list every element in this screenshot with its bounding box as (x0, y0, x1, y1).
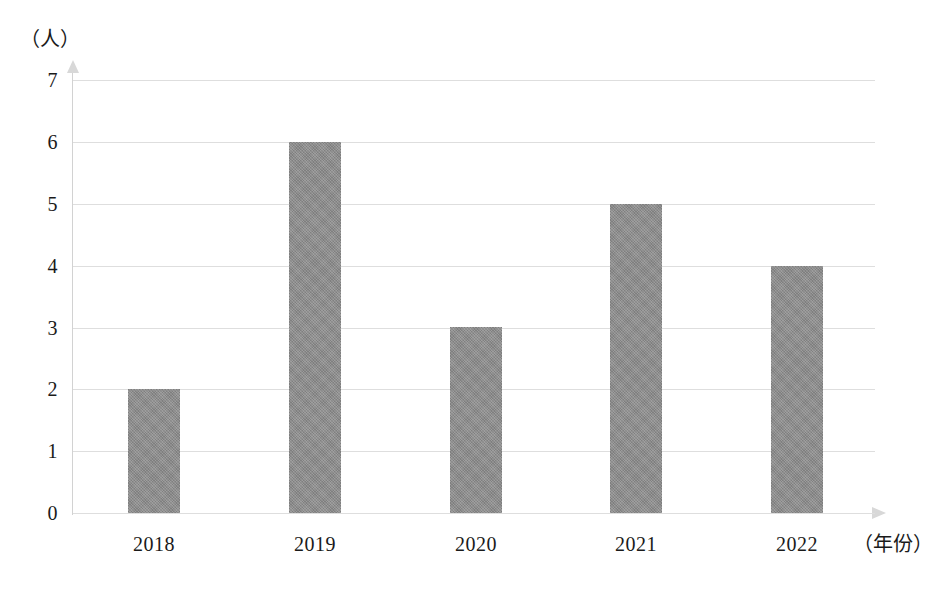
y-tick-1: 1 (28, 441, 58, 461)
y-tick-3: 3 (28, 318, 58, 338)
y-tick-5: 5 (28, 194, 58, 214)
gridline-0 (73, 513, 875, 514)
y-tick-4: 4 (28, 256, 58, 276)
gridline-5 (73, 204, 875, 205)
y-tick-2: 2 (28, 379, 58, 399)
gridline-7 (73, 80, 875, 81)
x-axis-title: （年份） (853, 533, 933, 555)
x-tick-2019: 2019 (265, 533, 365, 555)
x-tick-2020: 2020 (426, 533, 526, 555)
y-tick-7: 7 (28, 70, 58, 90)
plot-area (73, 80, 875, 513)
bar-2021 (610, 204, 662, 513)
bar-2019 (289, 142, 341, 513)
gridline-4 (73, 266, 875, 267)
bar-2018 (128, 389, 180, 513)
y-tick-0: 0 (28, 503, 58, 523)
y-axis-arrow-icon (67, 60, 79, 73)
bar-chart: （人） 7 6 5 4 3 2 1 0 2018 201 (0, 0, 937, 591)
x-tick-2021: 2021 (586, 533, 686, 555)
y-tick-6: 6 (28, 132, 58, 152)
gridline-6 (73, 142, 875, 143)
y-axis-ticks: 7 6 5 4 3 2 1 0 (18, 0, 58, 591)
bar-2022 (771, 266, 823, 513)
x-tick-2018: 2018 (104, 533, 204, 555)
x-tick-2022: 2022 (747, 533, 847, 555)
bar-2020 (450, 327, 502, 513)
